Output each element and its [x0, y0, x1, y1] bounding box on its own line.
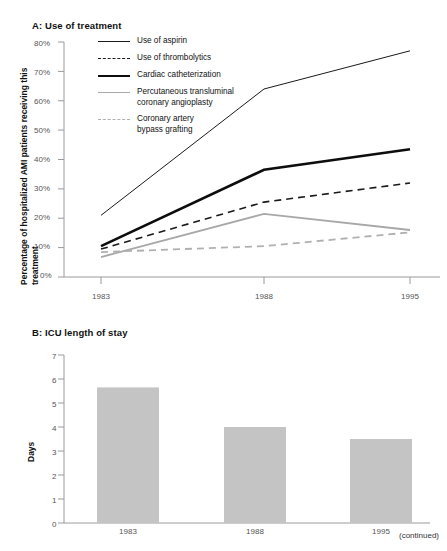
figure-panel-container: A: Use of treatment Percentage of hospit… — [0, 0, 447, 551]
panel-b-plot-area — [0, 0, 447, 551]
panel-b-bar-1988 — [224, 427, 286, 523]
continued-note: (continued) — [399, 531, 439, 540]
panel-b-y-ticks — [58, 355, 64, 523]
panel-b-bar-1983 — [97, 387, 159, 523]
panel-b-bar-1995 — [350, 439, 412, 523]
panel-b-bars-group — [97, 387, 412, 523]
